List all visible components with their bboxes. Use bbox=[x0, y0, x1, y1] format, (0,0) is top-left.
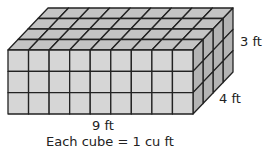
height-label: 3 ft bbox=[240, 34, 262, 49]
width-label: 4 ft bbox=[219, 91, 241, 106]
caption: Each cube = 1 cu ft bbox=[46, 134, 174, 147]
labels-layer: 3 ft 4 ft 9 ft Each cube = 1 cu ft bbox=[0, 0, 266, 147]
length-label: 9 ft bbox=[92, 118, 114, 133]
